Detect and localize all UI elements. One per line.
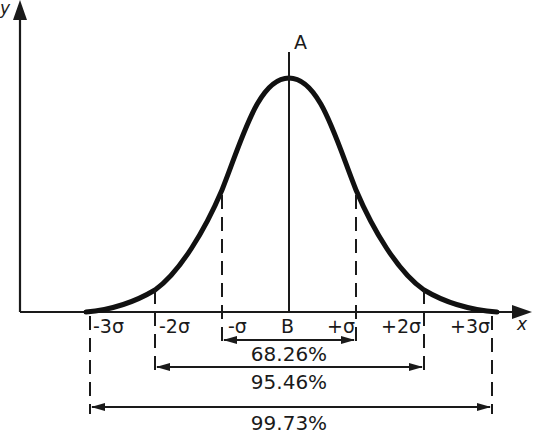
normal-distribution-diagram: y x A -3σ -2σ -σ B +σ +2σ +3σ 68.26% 95.… <box>0 0 533 444</box>
tick-label-plus-sigma: +σ <box>327 315 355 337</box>
tick-label-minus-3-sigma: -3σ <box>93 315 124 337</box>
tick-label-plus-2-sigma: +2σ <box>381 315 421 337</box>
mean-top-label: A <box>294 31 307 53</box>
bell-curve <box>86 78 497 312</box>
tick-label-minus-sigma: -σ <box>228 315 247 337</box>
range-label-3-sigma: 99.73% <box>251 411 327 435</box>
range-label-2-sigma: 95.46% <box>251 370 327 394</box>
x-axis-label: x <box>516 314 528 334</box>
y-axis-arrow-icon <box>13 0 27 20</box>
range-label-1-sigma: 68.26% <box>251 342 327 366</box>
y-axis <box>13 0 27 312</box>
tick-label-minus-2-sigma: -2σ <box>159 315 190 337</box>
tick-label-plus-3-sigma: +3σ <box>450 315 490 337</box>
y-axis-label: y <box>0 0 11 18</box>
mean-bottom-label: B <box>281 315 294 337</box>
